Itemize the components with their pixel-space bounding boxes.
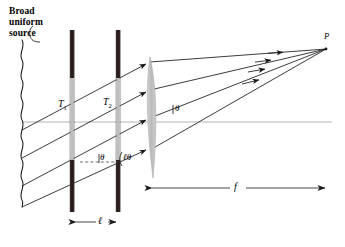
slit-2-label: T2 — [103, 96, 112, 109]
focal-length-label: f — [234, 181, 237, 192]
slit-1-aperture — [71, 78, 74, 160]
converging-ray-group — [150, 49, 326, 150]
slit-2-aperture — [117, 78, 120, 160]
figure-canvas: Broad uniform source T1 T2 θ ℓθ θ f ℓ P — [0, 0, 345, 247]
slit-1-label: T1 — [58, 98, 67, 111]
barrier-1-upper — [70, 30, 74, 78]
point-p-label: P — [324, 31, 329, 41]
barrier-2-lower — [116, 160, 120, 212]
focus-point-p — [325, 48, 328, 51]
slit-2-label-sub: 2 — [109, 102, 112, 109]
optics-diagram-svg — [0, 0, 345, 247]
ell-theta-label: ℓθ — [123, 152, 131, 162]
incoming-ray-group — [22, 64, 146, 207]
theta-left-label: θ — [100, 152, 104, 162]
broad-uniform-source-wave — [21, 40, 23, 207]
theta-right-label: θ — [175, 103, 179, 113]
barrier-1 — [70, 30, 74, 212]
converging-ray-4 — [150, 49, 326, 150]
slit-1-label-sub: 1 — [64, 104, 67, 111]
barrier-2 — [116, 30, 120, 212]
incoming-ray-1 — [22, 64, 146, 130]
converging-lens — [147, 57, 156, 178]
barrier-2-upper — [116, 30, 120, 78]
source-label-line-1: Broad — [9, 6, 35, 17]
incoming-ray-2 — [22, 92, 146, 158]
barrier-1-lower — [70, 160, 74, 212]
source-label-line-3: source — [9, 28, 36, 39]
slit-separation-label: ℓ — [98, 215, 102, 226]
source-label-line-2: uniform — [9, 17, 43, 28]
